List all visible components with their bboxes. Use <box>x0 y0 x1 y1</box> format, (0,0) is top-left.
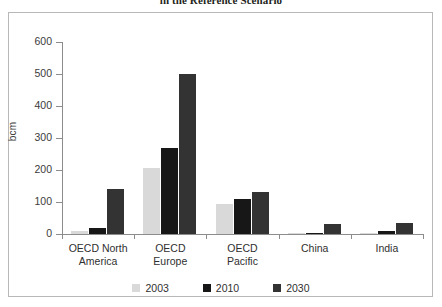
bar-2010-4 <box>378 231 395 234</box>
bar-group <box>360 42 414 234</box>
chart-title: in the Reference Scenario <box>0 0 442 7</box>
y-tick <box>56 202 62 203</box>
legend-label: 2003 <box>145 282 168 294</box>
legend-item-2003[interactable]: 2003 <box>132 282 168 294</box>
bar-group <box>143 42 197 234</box>
bar-group <box>71 42 125 234</box>
y-tick-label: 400 <box>0 99 52 111</box>
bar-group <box>216 42 270 234</box>
y-tick-label: 300 <box>0 131 52 143</box>
bar-2010-3 <box>306 233 323 235</box>
chart-figure: in the Reference Scenario bcm 0100200300… <box>0 0 442 307</box>
y-tick <box>56 138 62 139</box>
y-tick-label: 500 <box>0 67 52 79</box>
y-tick-label: 0 <box>0 227 52 239</box>
legend-swatch-icon <box>203 284 211 292</box>
y-tick-label: 100 <box>0 195 52 207</box>
legend-item-2030[interactable]: 2030 <box>273 282 309 294</box>
bar-2003-4 <box>360 233 377 235</box>
category-label: India <box>332 242 442 255</box>
bar-2003-0 <box>71 231 88 234</box>
x-tick <box>134 234 135 239</box>
x-tick <box>206 234 207 239</box>
x-axis-line <box>62 234 423 235</box>
y-tick <box>56 74 62 75</box>
x-tick <box>279 234 280 239</box>
y-tick <box>56 170 62 171</box>
legend-swatch-icon <box>132 284 140 292</box>
legend-swatch-icon <box>273 284 281 292</box>
x-tick <box>62 234 63 239</box>
bar-2003-3 <box>288 233 305 235</box>
bar-2030-1 <box>179 74 196 234</box>
bar-2030-3 <box>324 224 341 234</box>
chart-legend: 200320102030 <box>0 282 442 294</box>
category-label-line: Pacific <box>188 255 298 268</box>
y-tick <box>56 106 62 107</box>
x-tick <box>423 234 424 239</box>
bar-2003-1 <box>143 168 160 234</box>
bar-2030-2 <box>252 192 269 234</box>
legend-label: 2010 <box>216 282 239 294</box>
bar-2003-2 <box>216 204 233 234</box>
bar-2030-0 <box>107 189 124 234</box>
category-label-line: India <box>332 242 442 255</box>
x-tick <box>351 234 352 239</box>
plot-area: 0100200300400500600 OECD NorthAmericaOEC… <box>62 42 423 234</box>
y-tick <box>56 42 62 43</box>
legend-label: 2030 <box>286 282 309 294</box>
bar-2010-1 <box>161 148 178 234</box>
y-tick-label: 200 <box>0 163 52 175</box>
bar-2010-2 <box>234 199 251 234</box>
bar-2030-4 <box>396 223 413 234</box>
bar-2010-0 <box>89 228 106 234</box>
bar-group <box>288 42 342 234</box>
y-tick-label: 600 <box>0 35 52 47</box>
y-axis-line <box>62 42 63 234</box>
legend-item-2010[interactable]: 2010 <box>203 282 239 294</box>
